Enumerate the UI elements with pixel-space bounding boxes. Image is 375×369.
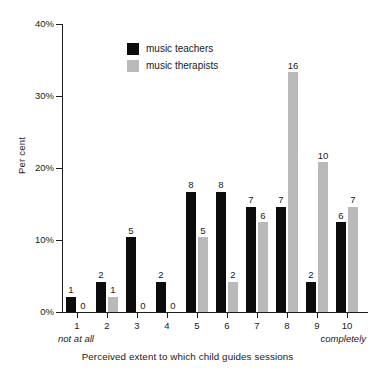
x-axis-tick-mark xyxy=(287,313,288,318)
bar-value-label: 0 xyxy=(80,300,85,311)
x-axis-tick-mark xyxy=(257,313,258,318)
y-axis-tick-label: 40% xyxy=(35,18,54,30)
bar-value-label: 2 xyxy=(230,269,235,280)
bar-therapists-2 xyxy=(108,297,119,312)
y-axis-tick-label: 10% xyxy=(35,234,54,246)
y-axis-tick-label: 0% xyxy=(40,306,54,318)
bar-value-label: 5 xyxy=(128,225,133,236)
bar-teachers-10 xyxy=(336,222,347,312)
y-axis-tick-label: 20% xyxy=(35,162,54,174)
bar-value-label: 2 xyxy=(158,269,163,280)
y-axis-tick: 0% xyxy=(0,306,62,318)
bar-value-label: 2 xyxy=(98,269,103,280)
bar-chart-figure: Per cent 0%10%20%30%40% 1021502085827671… xyxy=(0,0,375,369)
bar-value-label: 2 xyxy=(308,269,313,280)
x-axis-tick-label: 7 xyxy=(254,320,259,331)
x-axis-tick-label: 3 xyxy=(134,320,139,331)
legend-label-teachers: music teachers xyxy=(146,43,213,55)
bar-therapists-7 xyxy=(258,222,269,312)
bar-therapists-10 xyxy=(348,207,359,312)
bar-teachers-1 xyxy=(66,297,77,312)
bar-value-label: 1 xyxy=(110,284,115,295)
bar-value-label: 0 xyxy=(140,300,145,311)
bar-value-label: 8 xyxy=(188,179,193,190)
x-axis-tick-mark xyxy=(137,313,138,318)
y-axis-tick: 10% xyxy=(0,234,62,246)
bar-teachers-4 xyxy=(156,282,167,312)
x-axis-tick-label: 5 xyxy=(194,320,199,331)
bar-value-label: 5 xyxy=(200,225,205,236)
x-axis-tick-mark xyxy=(227,313,228,318)
bar-value-label: 7 xyxy=(278,194,283,205)
bar-value-label: 1 xyxy=(68,284,73,295)
x-axis-tick-label: 4 xyxy=(164,320,169,331)
bar-group: 67 xyxy=(332,24,362,312)
x-axis-tick-mark xyxy=(167,313,168,318)
y-axis-tick-label: 30% xyxy=(35,90,54,102)
x-axis-tick-label: 1 xyxy=(74,320,79,331)
bar-value-label: 7 xyxy=(350,194,355,205)
bar-teachers-5 xyxy=(186,192,197,312)
bar-value-label: 6 xyxy=(260,210,265,221)
y-axis-tick: 30% xyxy=(0,90,62,102)
bar-group: 21 xyxy=(92,24,122,312)
x-axis-tick-mark xyxy=(77,313,78,318)
bar-therapists-5 xyxy=(198,237,209,312)
y-axis-tick: 40% xyxy=(0,18,62,30)
bar-group: 210 xyxy=(302,24,332,312)
bar-value-label: 16 xyxy=(288,60,299,71)
bar-value-label: 0 xyxy=(170,300,175,311)
bar-teachers-7 xyxy=(246,207,257,312)
legend-item-music-therapists: music therapists xyxy=(127,57,218,74)
x-axis-tick-mark xyxy=(197,313,198,318)
x-axis-tick-label: 9 xyxy=(314,320,319,331)
bar-value-label: 7 xyxy=(248,194,253,205)
legend-swatch-icon-teachers xyxy=(127,43,139,55)
bar-group: 716 xyxy=(272,24,302,312)
bar-teachers-9 xyxy=(306,282,317,312)
x-axis-anchor-low: not at all xyxy=(58,333,94,344)
x-axis-tick-label: 2 xyxy=(104,320,109,331)
y-axis-title: Per cent xyxy=(16,116,27,196)
bar-value-label: 6 xyxy=(338,210,343,221)
x-axis-tick-label: 8 xyxy=(284,320,289,331)
x-axis-title: Perceived extent to which child guides s… xyxy=(0,351,375,362)
x-axis-tick-mark xyxy=(317,313,318,318)
x-axis-tick-label: 10 xyxy=(342,320,353,331)
bar-value-label: 8 xyxy=(218,179,223,190)
bar-therapists-8 xyxy=(288,72,299,312)
x-axis-tick-label: 6 xyxy=(224,320,229,331)
x-axis-tick-mark xyxy=(347,313,348,318)
bar-therapists-6 xyxy=(228,282,239,312)
bar-teachers-8 xyxy=(276,207,287,312)
bar-teachers-3 xyxy=(126,237,137,312)
bar-teachers-2 xyxy=(96,282,107,312)
x-axis-anchor-high: completely xyxy=(321,333,366,344)
legend-label-therapists: music therapists xyxy=(146,60,218,72)
y-axis-tick: 20% xyxy=(0,162,62,174)
bar-group: 10 xyxy=(62,24,92,312)
bar-group: 76 xyxy=(242,24,272,312)
chart-legend: music teachers music therapists xyxy=(127,40,218,74)
bar-therapists-9 xyxy=(318,162,329,312)
legend-swatch-icon-therapists xyxy=(127,60,139,72)
x-axis-tick-mark xyxy=(107,313,108,318)
legend-item-music-teachers: music teachers xyxy=(127,40,218,57)
bar-value-label: 10 xyxy=(318,150,329,161)
bar-teachers-6 xyxy=(216,192,227,312)
